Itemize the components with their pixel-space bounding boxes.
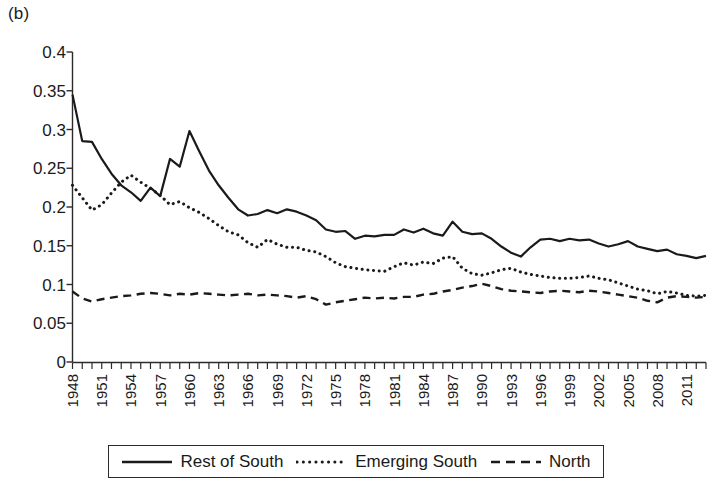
series-line-rest-of-south [73,95,707,259]
y-axis-tick-marks [67,52,73,362]
x-tick-label: 2005 [620,374,637,407]
x-tick-label: 1975 [327,374,344,407]
x-tick-label: 1966 [239,374,256,407]
legend-swatch-solid [121,455,173,469]
y-tick-label: 0.25 [33,159,66,178]
legend-entry-rest-of-south: Rest of South [121,452,283,472]
y-tick-label: 0.2 [42,198,66,217]
y-tick-label: 0.35 [33,82,66,101]
x-tick-label: 1972 [298,374,315,407]
line-chart-plot: 0.40.350.30.250.20.150.10.050 1948195119… [0,0,712,445]
series-line-north [73,284,707,305]
x-tick-label: 2002 [590,374,607,407]
y-tick-label: 0 [57,353,66,372]
x-tick-label: 1993 [503,374,520,407]
x-tick-label: 1999 [561,374,578,407]
x-tick-label: 1948 [64,374,81,407]
legend-label-north: North [549,452,591,472]
x-tick-label: 1981 [386,374,403,407]
x-tick-label: 1963 [210,374,227,407]
legend-label-emerging-south: Emerging South [355,452,477,472]
y-axis-tick-labels: 0.40.350.30.250.20.150.10.050 [33,43,66,372]
y-tick-label: 0.15 [33,237,66,256]
x-tick-label: 1960 [181,374,198,407]
data-series-group [73,95,707,305]
legend-entry-north: North [490,452,591,472]
legend-swatch-dotted [296,455,348,469]
legend-entry-emerging-south: Emerging South [296,452,477,472]
legend-label-rest-of-south: Rest of South [180,452,283,472]
y-tick-label: 0.3 [42,121,66,140]
y-tick-label: 0.1 [42,276,66,295]
y-tick-label: 0.4 [42,43,66,62]
chart-legend: Rest of South Emerging South North [108,445,604,478]
x-tick-label: 1978 [356,374,373,407]
x-tick-label: 2011 [678,374,695,406]
x-tick-label: 1969 [269,374,286,407]
x-tick-label: 1957 [152,374,169,407]
y-tick-label: 0.05 [33,314,66,333]
x-tick-label: 1996 [532,374,549,407]
x-tick-label: 1951 [93,374,110,407]
x-tick-label: 1990 [473,374,490,407]
x-axis-tick-marks [73,363,707,370]
x-tick-label: 2008 [649,374,666,407]
x-tick-label: 1954 [122,374,139,407]
x-tick-label: 1984 [415,374,432,407]
x-axis-tick-labels: 1948195119541957196019631966196919721975… [64,374,695,407]
chart-figure: (b) 0.40.350.30.250.20.150.10.050 194819… [0,0,712,483]
legend-swatch-dashed [490,455,542,469]
x-tick-label: 1987 [444,374,461,407]
